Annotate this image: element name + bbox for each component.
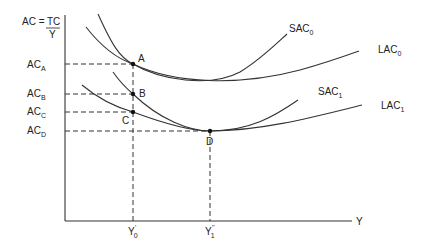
svg-text:LAC0: LAC0 (378, 44, 401, 57)
label-lac0: LAC0 (378, 44, 401, 57)
point-a-label: A (138, 53, 145, 64)
svg-text:ACB: ACB (27, 88, 46, 101)
tick-y0: Y0 ' (128, 224, 138, 239)
label-sac1: SAC1 (318, 86, 343, 99)
point-b-label: B (139, 88, 146, 99)
point-d (208, 129, 212, 133)
svg-text:AC =: AC = (22, 16, 45, 27)
svg-text:ACA: ACA (27, 59, 46, 72)
tick-ac-a: ACA (27, 59, 46, 72)
point-b (131, 92, 135, 96)
svg-text:Y: Y (49, 29, 56, 40)
point-c-label: C (122, 115, 129, 126)
svg-text:ACC: ACC (27, 106, 46, 119)
lac0-curve (86, 27, 359, 81)
svg-text:ACD: ACD (27, 125, 46, 138)
svg-text:SAC0: SAC0 (289, 23, 314, 36)
svg-text:LAC1: LAC1 (381, 100, 404, 113)
tick-y1: Y1 '' (205, 224, 215, 239)
x-axis-label: Y (356, 216, 363, 227)
tick-ac-b: ACB (27, 88, 46, 101)
point-a (131, 62, 135, 66)
svg-text:SAC1: SAC1 (318, 86, 343, 99)
label-sac0: SAC0 (289, 23, 314, 36)
label-lac1: LAC1 (381, 100, 404, 113)
point-c (131, 110, 135, 114)
y-axis-label: AC = TC Y (22, 16, 60, 40)
sac0-curve (98, 14, 287, 81)
tick-ac-c: ACC (27, 106, 46, 119)
point-d-label: D (206, 136, 213, 147)
svg-text:TC: TC (47, 16, 60, 27)
tick-ac-d: ACD (27, 125, 46, 138)
cost-curves-diagram: AC = TC Y Y A B C D ACA ACB ACC ACD Y0 '… (0, 0, 427, 251)
svg-text:'': '' (212, 224, 215, 231)
svg-text:': ' (135, 224, 136, 231)
